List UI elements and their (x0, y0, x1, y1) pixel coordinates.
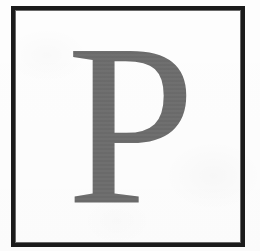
drop-cap-letter-p: P (66, 34, 195, 215)
scanned-page: P (0, 0, 260, 251)
drop-cap-container: P (16, 11, 240, 242)
